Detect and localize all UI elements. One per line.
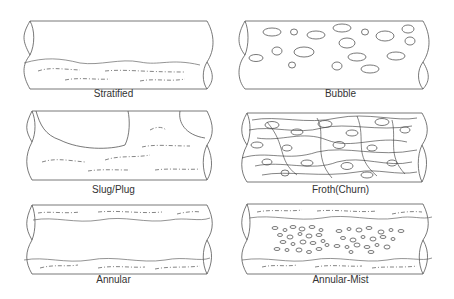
panel-annular-mist: Annular-Mist [227, 200, 454, 299]
panel-annular: Annular [0, 200, 227, 299]
panel-slug-plug: Slug/Plug [0, 100, 227, 200]
label-annular: Annular [0, 274, 227, 285]
panel-bubble: Bubble [227, 0, 454, 100]
mist-droplets [272, 226, 404, 254]
panel-froth-churn: Froth(Churn) [227, 100, 454, 200]
panel-stratified: Stratified [0, 0, 227, 100]
label-stratified: Stratified [0, 88, 227, 99]
label-annular-mist: Annular-Mist [227, 274, 454, 285]
label-froth-churn: Froth(Churn) [227, 184, 454, 195]
pipe-stratified-drawing [0, 0, 227, 100]
label-bubble: Bubble [227, 88, 454, 99]
label-slug-plug: Slug/Plug [0, 184, 227, 195]
pipe-bubble-drawing [227, 0, 454, 100]
